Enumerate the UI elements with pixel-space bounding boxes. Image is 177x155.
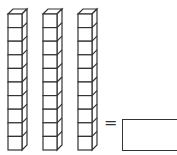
unit-cube <box>78 109 92 123</box>
unit-cube <box>78 82 92 96</box>
unit-cube <box>78 123 92 137</box>
unit-cube <box>43 41 57 55</box>
unit-cube <box>8 82 22 96</box>
unit-cube <box>8 109 22 123</box>
unit-cube <box>78 136 92 150</box>
unit-cube <box>8 96 22 110</box>
unit-cube <box>78 14 92 28</box>
unit-cube <box>8 123 22 137</box>
unit-cube <box>43 82 57 96</box>
unit-cube <box>8 68 22 82</box>
unit-cube <box>78 41 92 55</box>
unit-cube <box>43 123 57 137</box>
unit-cube <box>78 96 92 110</box>
ten-rod-2 <box>43 9 62 150</box>
unit-cube <box>43 136 57 150</box>
ten-rod-3 <box>78 9 97 150</box>
ten-rod-1 <box>8 9 27 150</box>
unit-cube <box>78 68 92 82</box>
unit-cube <box>8 41 22 55</box>
unit-cube <box>8 55 22 69</box>
unit-cube <box>43 109 57 123</box>
answer-box[interactable] <box>122 119 177 151</box>
unit-cube <box>43 55 57 69</box>
unit-cube <box>78 55 92 69</box>
unit-cube <box>43 28 57 42</box>
unit-cube <box>8 136 22 150</box>
unit-cube <box>43 68 57 82</box>
unit-cube <box>78 28 92 42</box>
equals-sign: = <box>104 115 117 131</box>
unit-cube <box>43 96 57 110</box>
unit-cube <box>43 14 57 28</box>
unit-cube <box>8 14 22 28</box>
unit-cube <box>8 28 22 42</box>
